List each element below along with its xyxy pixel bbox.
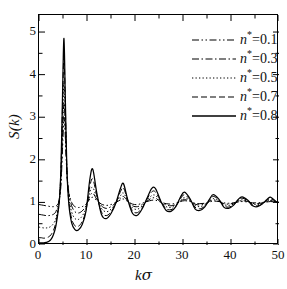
legend-swatch-dash-dot [191, 54, 237, 64]
y-tick-label-4: 4 [16, 67, 36, 80]
legend-swatch-solid [191, 111, 237, 121]
legend-item-0.5: n*=0.5 [191, 68, 287, 87]
legend-swatch-dashed [191, 92, 237, 102]
x-axis-title-k: k [135, 267, 142, 283]
y-tick-label-5: 5 [16, 24, 36, 37]
legend: n*=0.1n*=0.3n*=0.5n*=0.7n*=0.8 [191, 30, 287, 125]
x-tick-label-30: 30 [167, 248, 197, 261]
x-tick-label-50: 50 [263, 248, 287, 261]
y-tick-label-1: 1 [16, 194, 36, 207]
curve-n01 [39, 117, 279, 207]
x-axis-tick-labels: 01020304050 [0, 248, 287, 266]
y-tick-label-3: 3 [16, 109, 36, 122]
legend-item-0.7: n*=0.7 [191, 87, 287, 106]
legend-item-0.8: n*=0.8 [191, 106, 287, 125]
legend-swatch-dotted [191, 73, 237, 83]
plot-area: n*=0.1n*=0.3n*=0.5n*=0.7n*=0.8 [38, 14, 278, 244]
y-tick-label-2: 2 [16, 152, 36, 165]
legend-item-0.1: n*=0.1 [191, 30, 287, 49]
legend-item-0.3: n*=0.3 [191, 49, 287, 68]
x-tick-label-0: 0 [23, 248, 53, 261]
x-tick-label-40: 40 [215, 248, 245, 261]
legend-label: n*=0.1 [240, 33, 277, 47]
x-axis-title-sigma: σ [142, 266, 152, 284]
legend-label: n*=0.5 [240, 71, 277, 85]
legend-label: n*=0.3 [240, 52, 277, 66]
legend-swatch-dash-dot-dot [191, 35, 237, 45]
y-axis-tick-labels: 012345 [0, 0, 36, 289]
figure-structure-factor: S(k) 012345 n*=0.1n*=0.3n*=0.5n*=0.7n*=0… [0, 0, 287, 289]
x-tick-label-20: 20 [119, 248, 149, 261]
legend-label: n*=0.8 [240, 109, 277, 123]
x-tick-label-10: 10 [71, 248, 101, 261]
x-axis-title: kσ [0, 266, 287, 284]
legend-label: n*=0.7 [240, 90, 277, 104]
